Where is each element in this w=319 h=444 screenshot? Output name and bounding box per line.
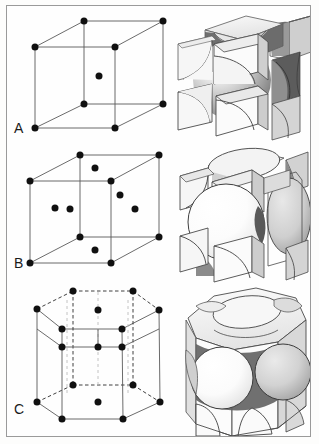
panel-c-hcp: C <box>0 0 319 444</box>
front-sphere-white <box>191 347 253 409</box>
lattice-point-interior <box>95 344 102 351</box>
lattice-point-face <box>95 399 102 406</box>
lattice-point <box>156 307 163 314</box>
lattice-point <box>59 416 66 423</box>
lattice-point <box>130 382 137 389</box>
lattice-point <box>34 306 41 313</box>
lattice-point <box>157 399 164 406</box>
lattice-point <box>70 382 77 389</box>
lattice-point <box>130 288 137 295</box>
lattice-point <box>59 326 66 333</box>
lattice-point <box>70 288 77 295</box>
crystal-structure-figure: A <box>0 0 319 444</box>
panel-c-lattice-points <box>34 288 164 423</box>
panel-label-c: C <box>14 401 24 417</box>
lattice-point-face <box>95 307 102 314</box>
lattice-point <box>119 326 126 333</box>
lattice-point <box>120 416 127 423</box>
lattice-point-interior <box>119 344 126 351</box>
front-sphere-gray <box>255 344 311 400</box>
panel-c-hard-sphere-model <box>186 288 311 436</box>
lattice-point-interior <box>59 344 66 351</box>
lattice-point <box>34 399 41 406</box>
